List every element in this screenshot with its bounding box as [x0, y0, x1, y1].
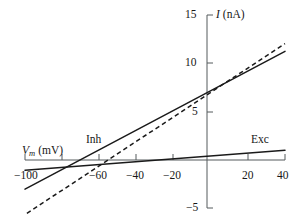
x-tick-label-minus40: −40 [126, 170, 144, 182]
y-tick-label-minus5: −5 [186, 202, 198, 214]
curve-label-exc: Exc [251, 134, 269, 146]
y-tick-label-5: 5 [192, 106, 198, 118]
x-tick-label-minus60: −60 [89, 170, 107, 182]
x-axis-title: Vm(mV) [22, 145, 63, 157]
plot-canvas [0, 0, 298, 221]
series-line-inh-dashed [27, 44, 285, 214]
y-tick-label-15: 15 [185, 9, 197, 21]
y-axis-title-unit: (nA) [223, 8, 245, 20]
x-axis-title-unit: (mV) [38, 144, 63, 156]
x-axis-title-symbol: V [22, 144, 29, 156]
y-axis-ticks [207, 63, 213, 112]
curve-label-inh: Inh [86, 134, 101, 146]
x-axis-title-subscript: m [29, 148, 35, 158]
x-axis [25, 154, 285, 160]
y-tick-label-10: 10 [185, 57, 197, 69]
y-axis-title: I(nA) [216, 9, 245, 21]
iv-curve-figure: 15 10 5 −5 −100 −60 −40 −20 20 40 I(nA) … [0, 0, 298, 221]
y-axis-title-symbol: I [216, 8, 220, 20]
x-tick-label-minus20: −20 [163, 170, 181, 182]
x-tick-label-20: 20 [242, 170, 254, 182]
x-tick-label-40: 40 [277, 170, 289, 182]
x-tick-label-minus100: −100 [14, 170, 38, 182]
